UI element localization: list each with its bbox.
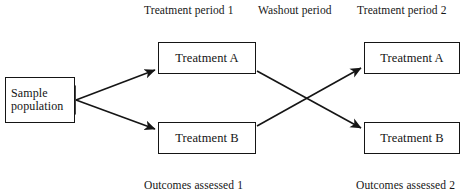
- edge-period1-treatment-b-to-period2-treatment-a: [257, 68, 361, 126]
- caption-outcomes-assessed-2: Outcomes assessed 2: [356, 180, 455, 192]
- edge-sample-to-period1-treatment-b: [76, 100, 155, 129]
- caption-outcomes-assessed-1: Outcomes assessed 1: [144, 180, 243, 192]
- caption-treatment-period-1: Treatment period 1: [144, 5, 234, 17]
- node-period2-treatment-b-label: Treatment B: [380, 131, 443, 145]
- edge-period1-treatment-a-to-period2-treatment-b: [257, 71, 361, 128]
- edge-sample-to-period1-treatment-a: [76, 70, 155, 100]
- node-period1-treatment-a-label: Treatment A: [175, 51, 238, 65]
- node-period2-treatment-a: Treatment A: [364, 42, 460, 74]
- node-sample-population-line-1: Sample: [11, 86, 48, 100]
- node-period1-treatment-a: Treatment A: [158, 42, 256, 74]
- crossover-trial-diagram: Treatment period 1 Washout period Treatm…: [0, 0, 469, 196]
- node-sample-population-label: Sample population: [11, 87, 63, 114]
- node-period1-treatment-b: Treatment B: [158, 122, 256, 154]
- node-sample-population-line-2: population: [11, 99, 63, 113]
- node-period2-treatment-b: Treatment B: [364, 122, 460, 154]
- node-period2-treatment-a-label: Treatment A: [380, 51, 443, 65]
- caption-treatment-period-2: Treatment period 2: [357, 5, 447, 17]
- caption-washout-period: Washout period: [258, 5, 332, 17]
- node-sample-population: Sample population: [5, 77, 75, 123]
- node-period1-treatment-b-label: Treatment B: [175, 131, 238, 145]
